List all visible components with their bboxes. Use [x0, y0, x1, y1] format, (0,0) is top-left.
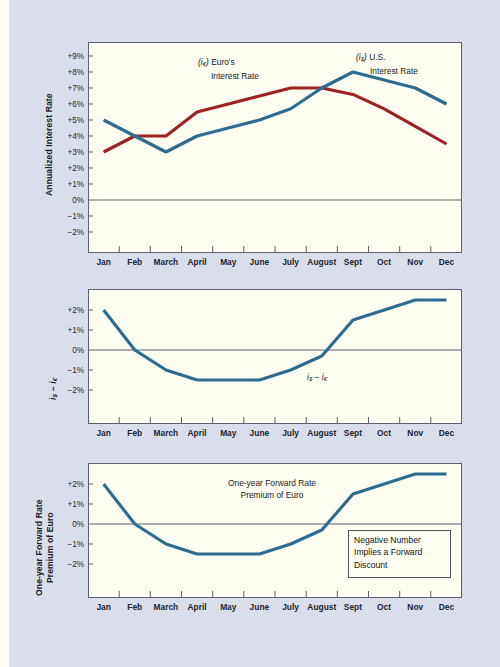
negative-number-note-box: Negative Number Implies a Forward Discou…: [348, 530, 451, 578]
note-line-2: Implies a Forward: [354, 547, 422, 557]
panel1-xtick-march: March: [150, 257, 181, 267]
figure-page: Annualized Interest Rate +9% +8% +7% +6%…: [0, 0, 500, 667]
panel1-xtick-april: April: [182, 257, 213, 267]
panel2-ytick: −2%: [54, 386, 84, 395]
panel3-xtick-feb: Feb: [119, 602, 150, 612]
differential-label: i$ − i€: [307, 371, 327, 385]
panel3-xtick-march: March: [150, 602, 181, 612]
panel3-ytick: +2%: [54, 480, 84, 489]
panel2-xtick-feb: Feb: [119, 428, 150, 438]
panel1-xtick-sept: Sept: [337, 257, 368, 267]
euro-series-label: (i€) Euro'sInterest Rate: [198, 56, 259, 82]
panel1-ytick: +4%: [54, 132, 84, 141]
panel2-xtick-august: August: [306, 428, 337, 438]
panel2-xtick-july: July: [275, 428, 306, 438]
panel3-x-ticks: [119, 591, 431, 598]
panel3-xtick-may: May: [213, 602, 244, 612]
panel1-y-ticks: [88, 56, 93, 232]
panel2-xtick-sept: Sept: [337, 428, 368, 438]
panel1-xtick-july: July: [275, 257, 306, 267]
panel3-xtick-august: August: [306, 602, 337, 612]
panel1-xtick-may: May: [213, 257, 244, 267]
panel2-xtick-dec: Dec: [431, 428, 462, 438]
panel1-xtick-oct: Oct: [369, 257, 400, 267]
panel1-ytick: −2%: [54, 228, 84, 237]
panel3-xtick-dec: Dec: [431, 602, 462, 612]
panel2-ytick: +2%: [54, 306, 84, 315]
panel2-ytick: 0%: [54, 346, 84, 355]
panel2-xtick-may: May: [213, 428, 244, 438]
panel1-ytick: +8%: [54, 68, 84, 77]
panel2-ytick: −1%: [54, 366, 84, 375]
panel2-plot-svg: [88, 289, 462, 424]
panel3-ytick: −2%: [54, 560, 84, 569]
forward-premium-label-line2: Premium of Euro: [241, 490, 304, 500]
panel1-xtick-nov: Nov: [400, 257, 431, 267]
panel1-series-us: [104, 72, 447, 152]
panel2-series-differential: [104, 300, 447, 380]
panel1-xtick-august: August: [306, 257, 337, 267]
panel3-xtick-july: July: [275, 602, 306, 612]
panel1-ytick: +1%: [54, 180, 84, 189]
panel3-xtick-nov: Nov: [400, 602, 431, 612]
panel1-ytick: 0%: [54, 196, 84, 205]
panel1-xtick-june: June: [244, 257, 275, 267]
forward-premium-label-line1: One-year Forward Rate: [228, 478, 316, 488]
panel2-xtick-jan: Jan: [88, 428, 119, 438]
panel3-ytick: −1%: [54, 540, 84, 549]
panel2-x-ticks: [119, 417, 431, 424]
panel1-ytick: −1%: [54, 212, 84, 221]
panel1-y-axis-title: Annualized Interest Rate: [44, 93, 54, 196]
panel3-ytick: +1%: [54, 500, 84, 509]
panel1-ytick: +7%: [54, 84, 84, 93]
panel1-ytick: +3%: [54, 148, 84, 157]
panel3-xtick-oct: Oct: [369, 602, 400, 612]
us-series-label: (i$) U.S.Interest Rate: [356, 51, 418, 77]
panel3-xtick-jan: Jan: [88, 602, 119, 612]
forward-premium-label: One-year Forward Rate Premium of Euro: [192, 477, 352, 501]
panel2-xtick-nov: Nov: [400, 428, 431, 438]
panel2-xtick-april: April: [182, 428, 213, 438]
panel1-xtick-jan: Jan: [88, 257, 119, 267]
panel1-ytick: +5%: [54, 116, 84, 125]
note-line-3: Discount: [354, 560, 387, 570]
panel1-x-ticks: [119, 246, 431, 253]
panel1-ytick: +9%: [54, 52, 84, 61]
panel3-xtick-june: June: [244, 602, 275, 612]
panel3-ytick: 0%: [54, 520, 84, 529]
panel2-xtick-oct: Oct: [369, 428, 400, 438]
panel1-series-euro: [104, 88, 447, 152]
panel2-xtick-june: June: [244, 428, 275, 438]
panel2-ytick: +1%: [54, 326, 84, 335]
panel1-xtick-dec: Dec: [431, 257, 462, 267]
panel3-xtick-sept: Sept: [337, 602, 368, 612]
note-line-1: Negative Number: [354, 535, 421, 545]
panel1-ytick: +6%: [54, 100, 84, 109]
panel3-xtick-april: April: [182, 602, 213, 612]
panel1-ytick: +2%: [54, 164, 84, 173]
panel1-xtick-feb: Feb: [119, 257, 150, 267]
panel2-xtick-march: March: [150, 428, 181, 438]
